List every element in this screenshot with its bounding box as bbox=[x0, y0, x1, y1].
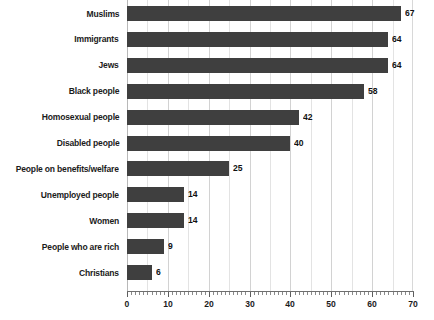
x-tick-minor bbox=[323, 292, 324, 295]
x-tick-minor bbox=[241, 292, 242, 295]
bar-value-label: 9 bbox=[168, 241, 173, 251]
x-tick-minor bbox=[327, 292, 328, 295]
x-tick-minor bbox=[217, 292, 218, 295]
x-tick-minor bbox=[401, 292, 402, 295]
x-tick-minor bbox=[380, 292, 381, 295]
x-tick-minor bbox=[188, 292, 189, 295]
x-tick-minor bbox=[393, 292, 394, 295]
bar bbox=[127, 32, 388, 47]
x-tick-minor bbox=[352, 292, 353, 295]
x-tick-minor bbox=[335, 292, 336, 295]
x-tick-minor bbox=[135, 292, 136, 295]
bar bbox=[127, 239, 164, 254]
x-tick-minor bbox=[368, 292, 369, 295]
bar bbox=[127, 84, 364, 99]
category-label: Homosexual people bbox=[41, 112, 119, 122]
x-tick-minor bbox=[405, 292, 406, 295]
x-tick-minor bbox=[376, 292, 377, 295]
x-tick-minor bbox=[311, 292, 312, 295]
x-tick-minor bbox=[258, 292, 259, 295]
bar-value-label: 42 bbox=[303, 112, 313, 122]
x-tick-minor bbox=[152, 292, 153, 295]
x-tick-minor bbox=[225, 292, 226, 295]
x-tick-major bbox=[209, 292, 210, 297]
x-tick-minor bbox=[201, 292, 202, 295]
x-tick-minor bbox=[274, 292, 275, 295]
bar bbox=[127, 58, 388, 73]
x-tick-label: 0 bbox=[125, 299, 130, 309]
bar-value-label: 14 bbox=[188, 189, 198, 199]
x-tick-minor bbox=[360, 292, 361, 295]
x-tick-minor bbox=[192, 292, 193, 295]
category-label: Christians bbox=[79, 268, 119, 278]
x-tick-minor bbox=[282, 292, 283, 295]
bar-value-label: 67 bbox=[405, 8, 415, 18]
category-label: Jews bbox=[99, 60, 119, 70]
x-tick-minor bbox=[286, 292, 287, 295]
x-tick-major bbox=[250, 292, 251, 297]
x-tick-minor bbox=[131, 292, 132, 295]
x-tick-major bbox=[331, 292, 332, 297]
bar bbox=[127, 110, 299, 125]
x-tick-minor bbox=[397, 292, 398, 295]
x-tick-minor bbox=[364, 292, 365, 295]
bar bbox=[127, 136, 290, 151]
plot-area: 67646458424025141496 bbox=[127, 0, 413, 291]
bar bbox=[127, 213, 184, 228]
x-tick-minor bbox=[245, 292, 246, 295]
bar bbox=[127, 6, 401, 21]
x-tick-label: 10 bbox=[163, 299, 173, 309]
x-tick-minor bbox=[196, 292, 197, 295]
x-tick-minor bbox=[180, 292, 181, 295]
x-tick-major bbox=[290, 292, 291, 297]
category-label: People on benefits/welfare bbox=[16, 164, 119, 174]
x-tick-minor bbox=[205, 292, 206, 295]
x-tick-minor bbox=[164, 292, 165, 295]
category-label: Unemployed people bbox=[41, 190, 119, 200]
x-tick-minor bbox=[172, 292, 173, 295]
x-tick-minor bbox=[303, 292, 304, 295]
category-label: Black people bbox=[69, 86, 119, 96]
cropped-caption-sliver bbox=[0, 314, 434, 320]
x-tick-minor bbox=[147, 292, 148, 295]
x-tick-minor bbox=[388, 292, 389, 295]
bar bbox=[127, 265, 152, 280]
bar-value-label: 25 bbox=[233, 163, 243, 173]
bar-value-label: 64 bbox=[392, 34, 402, 44]
x-tick-minor bbox=[229, 292, 230, 295]
x-tick-minor bbox=[270, 292, 271, 295]
bar-value-label: 40 bbox=[294, 138, 304, 148]
x-tick-minor bbox=[156, 292, 157, 295]
x-tick-major bbox=[168, 292, 169, 297]
category-label: Immigrants bbox=[75, 34, 119, 44]
bar bbox=[127, 161, 229, 176]
x-tick-label: 30 bbox=[245, 299, 255, 309]
bar bbox=[127, 187, 184, 202]
x-tick-minor bbox=[278, 292, 279, 295]
x-tick-minor bbox=[184, 292, 185, 295]
x-tick-label: 40 bbox=[286, 299, 296, 309]
x-tick-major bbox=[413, 292, 414, 297]
x-tick-minor bbox=[266, 292, 267, 295]
x-tick-minor bbox=[315, 292, 316, 295]
x-tick-minor bbox=[299, 292, 300, 295]
x-tick-minor bbox=[160, 292, 161, 295]
x-tick-minor bbox=[139, 292, 140, 295]
x-tick-minor bbox=[348, 292, 349, 295]
x-tick-minor bbox=[233, 292, 234, 295]
bar-value-label: 58 bbox=[368, 86, 378, 96]
x-tick-minor bbox=[339, 292, 340, 295]
x-tick-minor bbox=[143, 292, 144, 295]
category-label: People who are rich bbox=[42, 242, 119, 252]
x-tick-minor bbox=[384, 292, 385, 295]
x-tick-minor bbox=[356, 292, 357, 295]
x-tick-label: 50 bbox=[327, 299, 337, 309]
category-axis-labels: MuslimsImmigrantsJewsBlack peopleHomosex… bbox=[0, 0, 123, 291]
x-tick-minor bbox=[176, 292, 177, 295]
x-tick-minor bbox=[295, 292, 296, 295]
x-tick-minor bbox=[409, 292, 410, 295]
x-tick-minor bbox=[213, 292, 214, 295]
x-tick-label: 20 bbox=[204, 299, 214, 309]
x-tick-major bbox=[127, 292, 128, 297]
bar-value-label: 6 bbox=[156, 267, 161, 277]
